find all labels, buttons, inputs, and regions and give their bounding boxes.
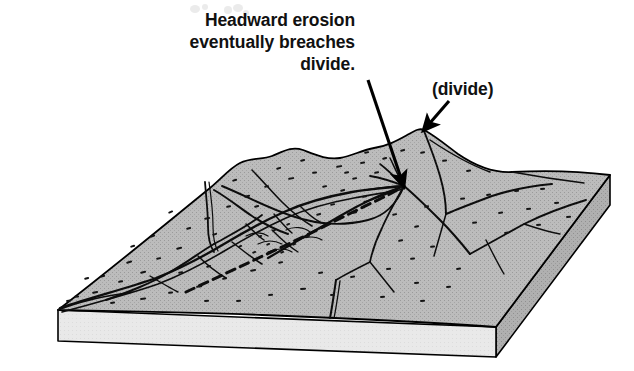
caption-line-2: eventually breaches [190,32,356,52]
figure-container: Headward erosion eventually breaches div… [0,0,634,371]
headward-erosion-caption: Headward erosion eventually breaches div… [190,10,356,74]
caption-line-3: divide. [300,54,355,74]
divide-pointer-arrow [423,101,449,131]
caption-line-1: Headward erosion [205,10,355,30]
block-body [58,129,610,357]
block-diagram-svg: Headward erosion eventually breaches div… [0,0,634,371]
divide-label: (divide) [432,79,493,99]
